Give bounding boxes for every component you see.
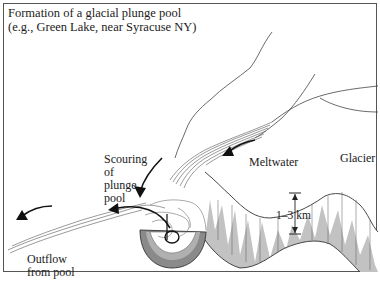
glacier-illustration xyxy=(0,0,380,289)
glacier-surface-lines xyxy=(175,32,378,158)
title-line-1: Formation of a glacial plunge pool xyxy=(8,6,196,20)
outflow-arrow xyxy=(22,206,52,216)
title-line-2: (e.g., Green Lake, near Syracuse NY) xyxy=(8,20,196,34)
label-outflow: Outflow from pool xyxy=(27,253,75,279)
label-scouring-line-4: pool xyxy=(104,192,147,205)
label-thickness: 1–3 km xyxy=(276,209,311,222)
label-outflow-line-2: from pool xyxy=(27,266,75,279)
label-glacier: Glacier xyxy=(340,152,375,165)
diagram-title: Formation of a glacial plunge pool (e.g.… xyxy=(8,6,196,34)
ice-cliff xyxy=(205,172,378,272)
label-meltwater: Meltwater xyxy=(249,156,298,169)
label-scouring: Scouring of plunge pool xyxy=(104,153,147,205)
